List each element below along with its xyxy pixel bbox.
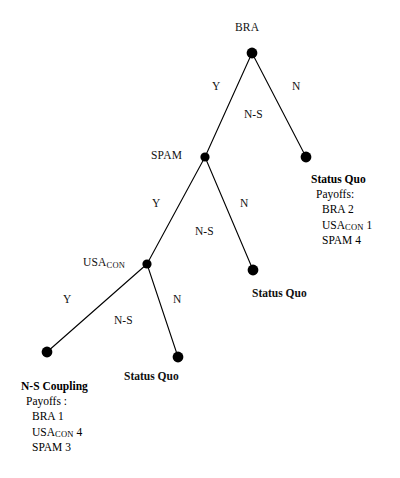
payoff-value: 3 [65, 441, 71, 453]
edge-branch-spam-yes: N-S [195, 226, 214, 238]
node-terminal-bottom-left [42, 347, 53, 358]
payoff-player-sub: CON [55, 429, 74, 439]
node-usacon [142, 259, 151, 268]
edge-spam-yes [147, 157, 205, 264]
outcome-status-quo-top-right: Status Quo Payoffs: BRA 2 USACON 1 SPAM … [311, 172, 372, 248]
payoff-player: BRA [322, 203, 345, 215]
payoff-player: BRA [32, 410, 55, 422]
edge-label-bra-yes: Y [212, 81, 220, 93]
outcome-title: N-S Coupling [21, 379, 88, 394]
outcome-title: Status Quo [311, 172, 372, 187]
payoff-player: USA [322, 219, 345, 231]
node-bra [247, 48, 258, 59]
payoff-row: SPAM 4 [311, 233, 372, 248]
payoff-player: USA [32, 426, 55, 438]
node-terminal-bottom-mid [173, 352, 184, 363]
node-label-spam: SPAM [151, 150, 182, 162]
payoff-value: 4 [76, 426, 82, 438]
node-label-bra: BRA [235, 22, 259, 34]
payoff-player-sub: CON [345, 222, 364, 232]
payoff-value: 4 [355, 234, 361, 246]
outcome-status-quo-mid-right: Status Quo [252, 288, 307, 300]
edge-label-usacon-yes: Y [63, 294, 71, 306]
edge-spam-no [205, 157, 253, 270]
payoff-player: SPAM [322, 234, 352, 246]
payoff-player: SPAM [32, 441, 62, 453]
edge-bra-yes [205, 53, 252, 157]
node-label-usacon-main: USA [83, 256, 107, 268]
edge-usacon-yes [47, 264, 147, 352]
edge-label-usacon-no: N [173, 294, 181, 306]
edge-branch-bra-yes: N-S [244, 109, 263, 121]
payoff-row: USACON 1 [311, 218, 372, 233]
edge-label-spam-yes: Y [152, 198, 160, 210]
payoff-row: BRA 1 [21, 409, 88, 424]
node-terminal-mid-right [248, 265, 259, 276]
payoff-row: BRA 2 [311, 202, 372, 217]
node-label-usacon-sub: CON [107, 260, 126, 270]
outcome-ns-coupling-bottom-left: N-S Coupling Payoffs : BRA 1 USACON 4 SP… [21, 379, 88, 455]
edge-bra-no [252, 53, 306, 157]
edge-label-spam-no: N [240, 198, 248, 210]
payoff-row: SPAM 3 [21, 440, 88, 455]
edge-branch-usacon-yes: N-S [114, 315, 133, 327]
payoff-row: USACON 4 [21, 425, 88, 440]
payoff-value: 1 [58, 410, 64, 422]
payoff-value: 1 [366, 219, 372, 231]
payoffs-heading: Payoffs : [21, 394, 88, 409]
payoff-value: 2 [348, 203, 354, 215]
game-tree-figure: BRA SPAM USACON Y N N-S Y N N-S Y N N-S … [0, 0, 400, 478]
edge-label-bra-no: N [292, 81, 300, 93]
node-label-usacon: USACON [83, 257, 125, 269]
node-spam [200, 152, 209, 161]
node-terminal-top-right [301, 152, 312, 163]
payoffs-heading: Payoffs: [311, 187, 372, 202]
edge-usacon-no [147, 264, 178, 357]
outcome-status-quo-bottom-mid: Status Quo [124, 371, 179, 383]
